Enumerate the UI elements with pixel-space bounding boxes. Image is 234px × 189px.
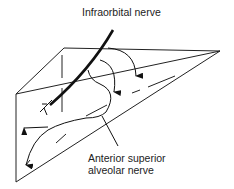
infraorbital-nerve-label: Infraorbital nerve — [82, 6, 161, 18]
anterior-superior-alveolar-nerve-label-line1: Anterior superior — [88, 152, 166, 164]
anterior-superior-alveolar-nerve-label-line2: alveolar nerve — [88, 164, 154, 176]
nerve-branches — [24, 48, 136, 165]
infraorbital-nerve — [50, 30, 113, 105]
